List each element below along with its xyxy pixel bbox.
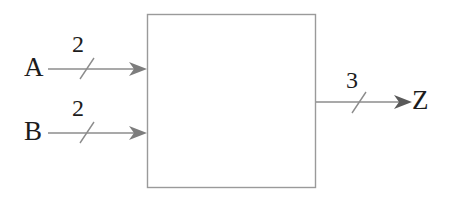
input-signal-b[interactable]: [48, 122, 147, 143]
input-a-label: A: [24, 54, 44, 81]
output-z-bus-width-label: 3: [346, 68, 358, 92]
output-signal-z[interactable]: [316, 92, 412, 113]
input-signal-a[interactable]: [48, 58, 147, 79]
function-block[interactable]: [148, 15, 316, 188]
input-a-bus-width-label: 2: [72, 32, 84, 56]
output-z-label: Z: [412, 87, 429, 114]
diagram-vector-layer: [0, 0, 451, 197]
input-b-bus-width-label: 2: [72, 96, 84, 120]
diagram-canvas: A B Z 2 2 3: [0, 0, 451, 197]
input-b-label: B: [24, 118, 42, 145]
